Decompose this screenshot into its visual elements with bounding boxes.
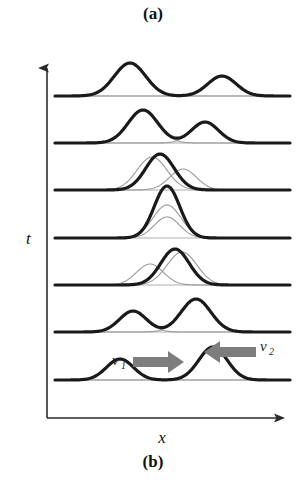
component-pulse xyxy=(55,169,290,190)
resultant-waveform xyxy=(55,299,290,332)
component-pulse xyxy=(55,217,290,238)
snapshot-rows xyxy=(55,63,290,380)
snapshot-row xyxy=(55,299,290,332)
v1-label-symbol: v xyxy=(112,352,119,368)
component-pulse xyxy=(55,205,290,238)
x-axis-label: x xyxy=(157,428,166,447)
snapshot-row xyxy=(55,110,290,143)
v2-arrow xyxy=(204,341,256,363)
resultant-waveform xyxy=(55,110,290,143)
v2-arrow-glyph xyxy=(204,341,256,363)
snapshot-row xyxy=(55,186,290,238)
component-pulse xyxy=(55,157,290,190)
snapshot-row xyxy=(55,63,290,96)
wave-plot: t x v 1 v 2 xyxy=(0,0,306,486)
resultant-waveform xyxy=(55,186,290,238)
v1-arrow xyxy=(133,351,184,373)
component-pulse xyxy=(55,264,290,285)
snapshot-row xyxy=(55,154,290,190)
axes: t x xyxy=(26,68,283,447)
v2-label-subscript: 2 xyxy=(269,346,274,357)
component-pulse xyxy=(55,299,290,332)
v2-label-symbol: v xyxy=(260,338,267,354)
resultant-waveform xyxy=(55,154,290,190)
component-pulse xyxy=(55,63,290,96)
resultant-waveform xyxy=(55,63,290,96)
v1-label-subscript: 1 xyxy=(121,360,126,371)
wave-superposition-figure: (a) t x v 1 v 2 xyxy=(0,0,306,486)
snapshot-row xyxy=(55,249,290,285)
panel-label-b: (b) xyxy=(0,452,306,472)
component-pulse xyxy=(55,122,290,143)
t-axis-label: t xyxy=(26,229,32,248)
v1-arrow-glyph xyxy=(133,351,184,373)
